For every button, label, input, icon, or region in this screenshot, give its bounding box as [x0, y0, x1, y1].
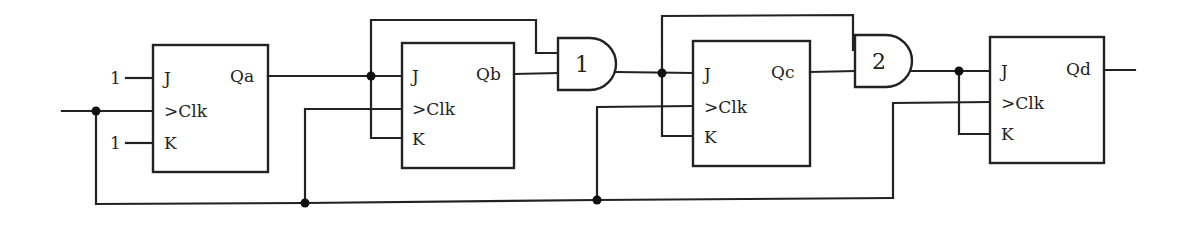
clk-label: >Clk: [412, 99, 456, 119]
clk-label: >Clk: [164, 101, 208, 121]
junction-dot: [92, 107, 101, 116]
junction-dot: [658, 69, 667, 78]
flipflop-b: J >Clk K Qb: [402, 43, 514, 168]
q-label: Qa: [230, 66, 254, 86]
k-input-value: 1: [110, 133, 121, 153]
k-label: K: [704, 127, 717, 147]
q-label: Qd: [1066, 59, 1091, 79]
j-label: J: [702, 64, 711, 84]
clk-label: >Clk: [704, 97, 748, 117]
flipflop-a: 1 1 J >Clk K Qa: [110, 45, 268, 172]
k-label: K: [164, 133, 177, 153]
j-label: J: [410, 66, 419, 86]
q-label: Qb: [476, 64, 501, 84]
flipflop-d: J >Clk K Qd: [990, 37, 1104, 163]
k-label: K: [412, 129, 425, 149]
j-label: J: [999, 61, 1008, 81]
gate-label: 1: [575, 52, 589, 77]
junction-dot: [593, 196, 602, 205]
and-gate-1: 1: [558, 38, 616, 90]
gate-label: 2: [872, 49, 886, 74]
flipflop-c: J >Clk K Qc: [693, 41, 810, 166]
j-label: J: [162, 68, 171, 88]
j-input-value: 1: [110, 68, 121, 88]
junction-dot: [955, 67, 964, 76]
gate2-output-net: [912, 67, 990, 135]
and-gate-2: 2: [855, 35, 912, 87]
clk-label: >Clk: [1001, 93, 1045, 113]
junction-dot: [367, 72, 376, 81]
counter-circuit-diagram: 1 1 J >Clk K Qa J >Clk K Qb 1 J >Clk: [0, 0, 1193, 225]
k-label: K: [1001, 124, 1014, 144]
q-label: Qc: [771, 62, 794, 82]
junction-dot: [301, 199, 310, 208]
